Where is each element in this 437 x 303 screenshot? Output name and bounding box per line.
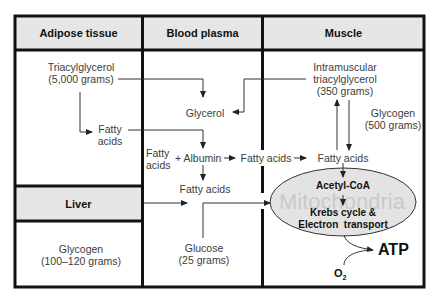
label-line: acids (146, 159, 174, 171)
label-line: Fatty (146, 147, 174, 159)
o2-symbol: O (334, 267, 343, 279)
label-line: Glycogen (363, 107, 423, 119)
label-line: Glucose (175, 242, 233, 254)
metabolism-diagram: Adipose tissue Blood plasma Muscle Liver… (0, 0, 437, 303)
plasma-fatty-acids-free: Fatty acids (239, 152, 293, 164)
label-line: Glycogen (34, 243, 128, 255)
label-line: Fatty (94, 123, 126, 135)
label-line: (100–120 grams) (34, 255, 128, 267)
plasma-glucose: Glucose (25 grams) (175, 242, 233, 266)
label-line: (500 grams) (363, 119, 423, 131)
muscle-intramuscular-triacylglycerol: Intramuscular triacylglycerol (350 grams… (305, 61, 385, 97)
acetyl-coa: Acetyl-CoA (313, 180, 373, 192)
o2-label: O2 (334, 267, 346, 284)
label-line: triacylglycerol (305, 73, 385, 85)
o2-subscript: 2 (343, 274, 347, 281)
plasma-fatty-acids-bound: Fatty acids (146, 147, 174, 171)
krebs-electron-transport: Krebs cycle & Electron transport (295, 207, 391, 231)
muscle-fatty-acids: Fatty acids (310, 152, 376, 164)
liver-glycogen: Glycogen (100–120 grams) (34, 243, 128, 267)
label-line: Triacylglycerol (34, 61, 128, 73)
plasma-glycerol: Glycerol (180, 107, 230, 119)
label-line: (5,000 grams) (34, 73, 128, 85)
label-line: Electron transport (295, 219, 391, 231)
plasma-albumin: + Albumin (175, 152, 225, 164)
label-line: (25 grams) (175, 254, 233, 266)
adipose-fatty-acids: Fatty acids (94, 123, 126, 147)
muscle-glycogen: Glycogen (500 grams) (363, 107, 423, 131)
adipose-triacylglycerol: Triacylglycerol (5,000 grams) (34, 61, 128, 85)
label-line: (350 grams) (305, 85, 385, 97)
atp-label: ATP (378, 241, 409, 259)
label-line: Intramuscular (305, 61, 385, 73)
label-line: Krebs cycle & (295, 207, 391, 219)
label-line: acids (94, 135, 126, 147)
plasma-fatty-acids-lower: Fatty acids (178, 183, 232, 195)
